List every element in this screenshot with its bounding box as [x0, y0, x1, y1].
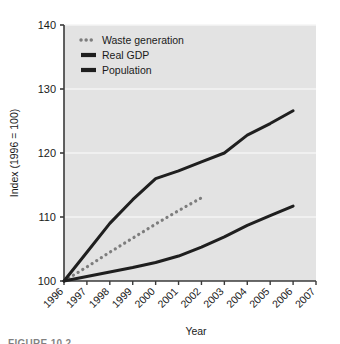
y-axis-ticks: 100110120130140 — [38, 19, 64, 287]
x-tick-label: 1996 — [40, 285, 65, 310]
x-tick-label: 2007 — [292, 285, 317, 310]
y-axis-title: Index (1996 = 100) — [8, 109, 20, 197]
x-tick-label: 1999 — [109, 285, 134, 310]
legend-label: Waste generation — [102, 34, 184, 46]
figure-container: 100110120130140 199619971998199920002001… — [0, 0, 340, 344]
x-tick-label: 2005 — [247, 285, 272, 310]
y-tick-label: 130 — [38, 83, 56, 95]
x-axis-title: Year — [185, 325, 207, 337]
x-tick-label: 2000 — [132, 285, 157, 310]
y-tick-label: 140 — [38, 19, 56, 31]
legend-label: Real GDP — [102, 49, 149, 61]
x-tick-label: 2003 — [201, 285, 226, 310]
x-tick-label: 2002 — [178, 285, 203, 310]
y-tick-label: 100 — [38, 275, 56, 287]
x-axis-ticks: 1996199719981999200020012002200320042005… — [40, 281, 317, 310]
x-tick-label: 2004 — [224, 285, 249, 310]
y-tick-label: 110 — [38, 211, 56, 223]
x-tick-label: 1997 — [63, 285, 88, 310]
figure-caption: FIGURE 10.2 — [8, 338, 71, 344]
legend-label: Population — [102, 64, 152, 76]
line-chart: 100110120130140 199619971998199920002001… — [0, 0, 340, 344]
y-tick-label: 120 — [38, 147, 56, 159]
x-tick-label: 1998 — [86, 285, 111, 310]
x-tick-label: 2006 — [270, 285, 295, 310]
x-tick-label: 2001 — [155, 285, 180, 310]
